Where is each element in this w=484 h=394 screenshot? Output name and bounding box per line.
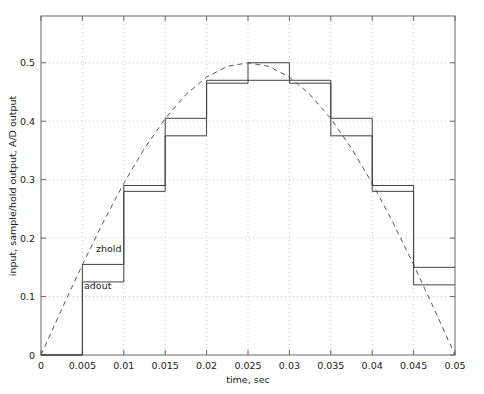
x-tick-label: 0.04 <box>362 360 383 371</box>
x-tick-label: 0.025 <box>234 360 261 371</box>
x-tick-label: 0 <box>38 360 44 371</box>
x-tick-label: 0.01 <box>113 360 134 371</box>
chart-canvas: 00.0050.010.0150.020.0250.030.0350.040.0… <box>0 0 484 394</box>
annotation-adout: adout <box>84 280 112 291</box>
y-tick-label: 0.4 <box>20 116 35 127</box>
x-tick-label: 0.03 <box>279 360 300 371</box>
x-tick-label: 0.045 <box>400 360 427 371</box>
figure-container: 00.0050.010.0150.020.0250.030.0350.040.0… <box>0 0 484 394</box>
x-axis-title: time, sec <box>226 374 270 385</box>
y-tick-label: 0.2 <box>20 233 35 244</box>
x-tick-label: 0.05 <box>444 360 465 371</box>
y-tick-label: 0.3 <box>20 174 35 185</box>
annotation-zhold: zhold <box>96 243 122 254</box>
x-tick-label: 0.035 <box>317 360 344 371</box>
y-tick-label: 0 <box>29 350 35 361</box>
y-tick-label: 0.5 <box>20 57 35 68</box>
y-tick-label: 0.1 <box>20 291 35 302</box>
chart-background <box>0 0 484 394</box>
x-tick-label: 0.02 <box>196 360 217 371</box>
x-tick-label: 0.005 <box>69 360 96 371</box>
x-tick-label: 0.015 <box>152 360 179 371</box>
y-axis-title: input, sample/hold output, A/D output <box>7 95 18 276</box>
